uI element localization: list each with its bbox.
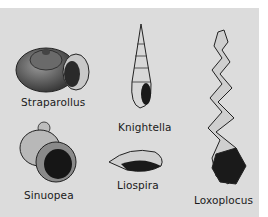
sinuopea-shell-illustration	[16, 118, 78, 184]
knightella-shell-illustration	[126, 22, 156, 112]
label-knightella: Knightella	[118, 121, 172, 133]
label-sinuopea: Sinuopea	[24, 189, 74, 201]
loxoplocus-shell-illustration	[198, 28, 254, 188]
straparollus-shell-illustration	[12, 30, 92, 100]
label-liospira: Liospira	[117, 179, 159, 191]
liospira-shell-illustration	[107, 144, 165, 176]
label-loxoplocus: Loxoplocus	[194, 194, 253, 206]
figure-panel: Straparollus Knightella Loxoplocus Sinuo…	[0, 8, 259, 217]
label-straparollus: Straparollus	[21, 96, 85, 108]
